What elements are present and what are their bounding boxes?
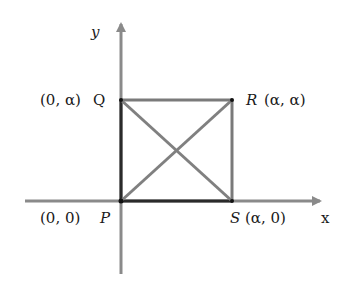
- coordinate-square-diagram: y x (0, α) Q R (α, α) (0, 0) P S (α, 0): [0, 0, 354, 281]
- x-axis-label: x: [321, 209, 330, 227]
- vertex-Q: [119, 98, 123, 102]
- point-S-coords: (α, 0): [245, 209, 286, 227]
- y-axis-label: y: [90, 23, 100, 41]
- point-S-name: S: [230, 209, 240, 227]
- point-Q-name: Q: [93, 91, 105, 109]
- vertex-S: [230, 199, 234, 203]
- vertex-P: [119, 199, 124, 204]
- vertex-R: [230, 98, 234, 102]
- point-P-coords: (0, 0): [40, 209, 80, 227]
- point-R-coords: (α, α): [264, 91, 306, 109]
- point-P-name: P: [99, 209, 111, 227]
- point-R-name: R: [245, 91, 257, 109]
- point-Q-coords: (0, α): [40, 91, 81, 109]
